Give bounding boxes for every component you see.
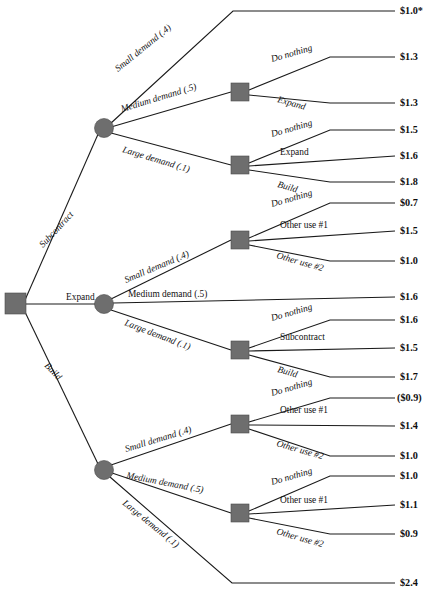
branch-exp-lg-subcontract[interactable] (249, 348, 395, 351)
branch-bld-md-other1[interactable] (249, 505, 395, 514)
decision-node-sub-large[interactable] (231, 156, 249, 174)
demand-label-exp-small: Small demand (.4) (123, 249, 191, 286)
decision-node-exp-small[interactable] (231, 231, 249, 249)
branch-exp-sm-other2[interactable] (249, 245, 395, 261)
branch-sub-med-donothing[interactable] (249, 57, 395, 90)
payoff-value: $1.6 (400, 314, 418, 325)
branch-sub-med-expand[interactable] (249, 95, 395, 103)
decision-node-exp-large[interactable] (231, 341, 249, 359)
payoff-labels-group: $1.0* $1.3 $1.3 $1.5 $1.6 $1.8 $0.7 $1.5… (397, 5, 423, 588)
payoff-value: $0.9 (400, 528, 418, 539)
branch-sub-small[interactable] (110, 11, 395, 124)
root-branch-label-build: Build (43, 360, 65, 382)
demand-label-exp-medium: Medium demand (.5) (128, 289, 207, 300)
demand-label-sub-large: Large demand (.1) (120, 144, 191, 175)
option-label-exp-sm-other2: Other use #2 (275, 250, 325, 273)
option-label-bld-md-other2: Other use #2 (275, 526, 325, 549)
payoff-value: $1.6 (400, 150, 418, 161)
option-label-sub-med-expand: Expand (275, 94, 307, 112)
root-decision-node[interactable] (5, 293, 26, 314)
branch-sub-lg-expand[interactable] (249, 156, 395, 166)
option-label-exp-lg-subcontract: Subcontract (280, 332, 325, 342)
payoff-value: $1.5 (400, 342, 418, 353)
payoff-value: $1.5 (400, 225, 418, 236)
demand-label-bld-medium: Medium demand (.5) (124, 470, 204, 496)
chance-node-build[interactable] (95, 461, 114, 480)
payoff-value: $0.7 (400, 197, 418, 208)
branch-bld-md-other2[interactable] (249, 518, 395, 534)
branch-bld-sm-other1[interactable] (249, 425, 395, 426)
root-branch-label-subcontract: Subcontract (37, 209, 75, 249)
demand-label-bld-large: Large demand (.1) (119, 497, 181, 550)
payoff-value: $1.6 (400, 291, 418, 302)
decision-node-bld-medium[interactable] (231, 504, 249, 522)
branch-sub-lg-build[interactable] (249, 170, 395, 182)
payoff-value: $1.8 (400, 176, 418, 187)
chance-node-expand[interactable] (95, 295, 114, 314)
root-branch-label-expand: Expand (66, 292, 95, 302)
option-label-bld-sm-other2: Other use #2 (275, 438, 325, 461)
demand-label-bld-small: Small demand (.4) (124, 424, 193, 455)
payoff-value: $1.0 (400, 255, 418, 266)
payoff-value: $1.5 (400, 124, 418, 135)
chance-node-subcontract[interactable] (95, 119, 114, 138)
payoff-value: $1.0 (400, 450, 418, 461)
option-label-exp-lg-donothing: Do nothing (269, 302, 314, 324)
payoff-value: $2.4 (400, 577, 418, 588)
option-label-exp-sm-other1: Other use #1 (280, 220, 328, 230)
option-label-sub-lg-expand: Expand (280, 147, 309, 157)
option-label-bld-md-donothing: Do nothing (269, 466, 314, 488)
branch-exp-sm-other1[interactable] (249, 231, 395, 241)
option-label-sub-med-donothing: Do nothing (269, 43, 314, 65)
option-label-bld-sm-donothing: Do nothing (269, 377, 314, 399)
payoff-value: $1.4 (400, 420, 418, 431)
decision-node-sub-medium[interactable] (231, 83, 249, 101)
branch-exp-lg-build[interactable] (249, 355, 395, 377)
decision-node-bld-small[interactable] (231, 415, 249, 433)
payoff-value: ($0.9) (397, 392, 422, 404)
demand-label-sub-medium: Medium demand (.5) (119, 81, 198, 115)
demand-label-exp-large: Large demand (.1) (122, 317, 192, 353)
payoff-value: $1.7 (400, 371, 418, 382)
demand-labels-group: Small demand (.4) Medium demand (.5) Lar… (113, 22, 207, 550)
payoff-value: $1.0 (400, 470, 418, 481)
demand-label-sub-small: Small demand (.4) (113, 22, 174, 74)
payoff-value: $1.3 (400, 97, 418, 108)
payoff-value: $1.1 (400, 499, 418, 510)
decision-tree-diagram: Subcontract Expand Build Small demand (.… (0, 0, 442, 595)
option-label-bld-sm-other1: Other use #1 (280, 405, 328, 415)
branch-build[interactable] (25, 312, 99, 466)
option-labels-group: Do nothing Expand Do nothing Expand Buil… (269, 43, 328, 550)
option-label-sub-lg-donothing: Do nothing (269, 118, 314, 140)
option-label-bld-md-other1: Other use #1 (280, 495, 328, 505)
payoff-value: $1.3 (400, 51, 418, 62)
option-label-exp-lg-build: Build (276, 364, 299, 379)
payoff-value: $1.0* (400, 5, 423, 16)
